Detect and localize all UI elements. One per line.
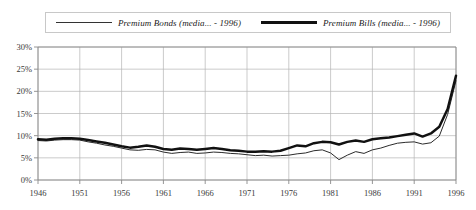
x-tick-label: 1991	[406, 188, 423, 198]
line-chart-svg: 0%5%10%15%20%25%30% 19461951195619611966…	[0, 0, 476, 210]
plot-area: 0%5%10%15%20%25%30% 19461951195619611966…	[0, 0, 476, 210]
tickmarks-group	[34, 47, 456, 184]
y-tick-label: 5%	[21, 153, 32, 163]
chart-page: Premium Bonds (media... - 1996) Premium …	[0, 0, 476, 210]
x-tick-label: 1956	[113, 188, 130, 198]
x-tick-label: 1971	[239, 188, 256, 198]
y-tick-label: 30%	[16, 42, 32, 52]
y-tick-label: 10%	[16, 131, 32, 141]
x-tick-label: 1946	[30, 188, 47, 198]
y-tick-label: 15%	[16, 109, 32, 119]
x-tick-label: 1986	[364, 188, 381, 198]
x-tick-label: 1951	[71, 188, 88, 198]
x-tick-label: 1976	[280, 188, 297, 198]
y-tick-label: 25%	[16, 64, 32, 74]
x-tick-label: 1966	[197, 188, 214, 198]
y-axis-labels-group: 0%5%10%15%20%25%30%	[16, 42, 32, 185]
x-axis-labels-group: 1946195119561961196619711976198119861991…	[30, 188, 465, 198]
gridlines-group	[38, 47, 456, 180]
x-tick-label: 1961	[155, 188, 172, 198]
y-tick-label: 0%	[21, 175, 32, 185]
x-tick-label: 1996	[448, 188, 465, 198]
y-tick-label: 20%	[16, 86, 32, 96]
x-tick-label: 1981	[322, 188, 339, 198]
